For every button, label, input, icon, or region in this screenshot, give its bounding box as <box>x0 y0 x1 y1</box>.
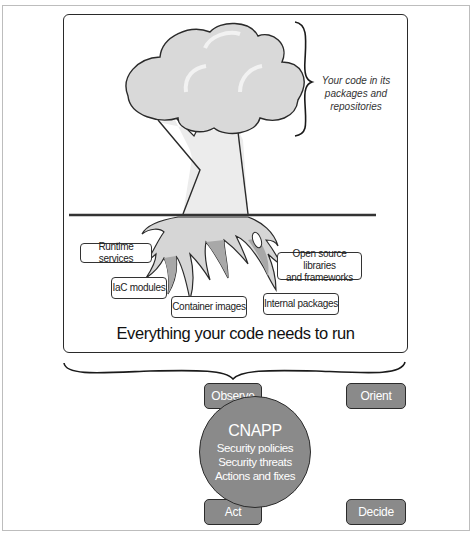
ooda-label: Orient <box>361 389 392 403</box>
cnapp-line-actions: Actions and fixes <box>200 469 310 483</box>
code-label-line-1: Your code in its <box>306 74 406 87</box>
cnapp-line-threats: Security threats <box>200 455 310 469</box>
ooda-label: Act <box>225 505 241 519</box>
tag-label: Internal packages <box>264 298 338 310</box>
ooda-decide: Decide <box>346 499 406 525</box>
tree-canopy <box>126 23 304 133</box>
cnapp-line-policies: Security policies <box>200 441 310 455</box>
tag-runtime-services: Runtime services <box>80 243 152 263</box>
cnapp-title: CNAPP <box>200 421 310 440</box>
ooda-label: Decide <box>358 505 394 519</box>
dependencies-brace <box>64 362 405 379</box>
tag-open-source-libraries: Open source libraries and frameworks <box>277 252 362 280</box>
tag-label-line-2: and frameworks <box>286 272 353 284</box>
tag-label: Container images <box>172 301 246 313</box>
tag-iac-modules: IaC modules <box>111 277 167 299</box>
ooda-orient: Orient <box>346 383 406 409</box>
tag-label: IaC modules <box>113 282 166 294</box>
code-label: Your code in its packages and repositori… <box>306 74 406 113</box>
cnapp-circle: CNAPP Security policies Security threats… <box>199 396 311 508</box>
tag-container-images: Container images <box>171 296 247 318</box>
tag-label: Runtime services <box>81 241 151 265</box>
caption: Everything your code needs to run <box>63 324 408 343</box>
tag-label-line-1: Open source libraries <box>278 248 361 272</box>
tag-internal-packages: Internal packages <box>263 293 339 315</box>
code-label-line-2: packages and repositories <box>306 87 406 113</box>
